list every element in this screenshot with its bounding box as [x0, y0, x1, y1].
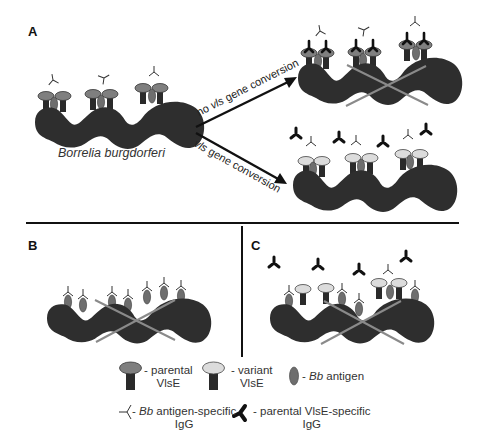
bacterium-panel-c [269, 251, 434, 344]
bacterium-variant-surviving [291, 124, 457, 212]
legend-bb-igg-line2: IgG [132, 418, 236, 431]
legend-bb-antigen: - Bb antigen [302, 370, 364, 383]
legend-bb-antigen-icon [290, 367, 299, 385]
bacterium-no-conversion-cleared [298, 16, 462, 106]
legend-variant-vlse-icon [203, 362, 225, 390]
legend-parental-vlse-line2: VlsE [144, 377, 193, 390]
organism-label: Borrelia burgdorferi [58, 146, 165, 160]
bacterium-panel-b [47, 277, 211, 343]
legend-variant-vlse-line2: VlsE [231, 377, 273, 390]
legend-parental-igg-line1: - parental VlsE-specific [253, 405, 371, 418]
legend-prefix: - [132, 405, 139, 417]
legend-parental-igg: - parental VlsE-specific IgG [253, 405, 371, 431]
legend-parental-igg-line2: IgG [253, 418, 371, 431]
legend-variant-vlse-line1: - variant [231, 364, 273, 377]
legend-bb-italic: Bb [309, 370, 323, 382]
arrow-conversion [196, 133, 287, 184]
legend-bb-igg-icon [119, 405, 131, 419]
bacterium-original [35, 66, 204, 149]
legend-variant-vlse: - variant VlsE [231, 364, 273, 390]
legend-bb-italic: Bb [139, 405, 153, 417]
legend-parental-vlse-icon [120, 362, 142, 390]
legend-suffix: antigen-specific [153, 405, 236, 417]
legend-suffix: antigen [323, 370, 364, 382]
legend-bb-igg: - Bb antigen-specific IgG [132, 405, 236, 431]
legend-prefix: - [302, 370, 309, 382]
legend-parental-vlse: - parental VlsE [144, 364, 193, 390]
legend-parental-vlse-line1: - parental [144, 364, 193, 377]
